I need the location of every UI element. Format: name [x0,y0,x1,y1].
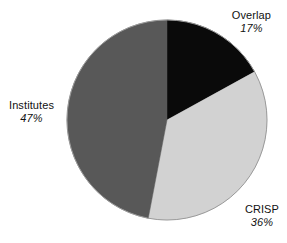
pie-label-crisp-name: CRISP [245,203,279,216]
pie-label-institutes-value: 47% [9,112,54,125]
pie-label-crisp: CRISP 36% [245,203,279,229]
pie-label-overlap: Overlap 17% [232,9,271,35]
pie-slice-group [67,20,267,220]
pie-label-crisp-value: 36% [245,216,279,229]
pie-slice-institutes [67,20,167,218]
pie-label-institutes: Institutes 47% [9,99,54,125]
pie-chart-figure: Overlap 17% CRISP 36% Institutes 47% [0,0,287,243]
pie-label-overlap-value: 17% [232,22,271,35]
pie-label-institutes-name: Institutes [9,99,54,112]
pie-label-overlap-name: Overlap [232,9,271,22]
